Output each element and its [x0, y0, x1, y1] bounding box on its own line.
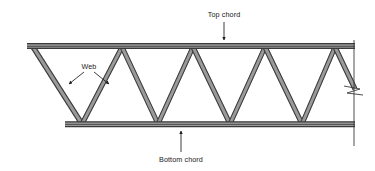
bottom-chord-member: [65, 122, 355, 127]
web-label: Web: [82, 62, 97, 71]
top-chord-annotation: Top chord: [208, 10, 240, 40]
web-diagonal: [228, 46, 266, 125]
truss-diagram: Top chord Bottom chord Web: [0, 0, 375, 171]
web-members: [31, 46, 357, 125]
bottom-chord-label: Bottom chord: [159, 155, 203, 164]
break-symbol-icon: [344, 86, 363, 95]
web-diagonal: [156, 46, 194, 125]
web-diagonal: [80, 46, 123, 125]
web-diagonal: [31, 46, 84, 125]
web-diagonal: [191, 46, 232, 125]
web-diagonal: [300, 46, 336, 125]
web-diagonal: [120, 46, 160, 125]
top-chord-member: [27, 44, 355, 49]
web-diagonal: [263, 46, 304, 125]
bottom-chord-annotation: Bottom chord: [159, 131, 203, 164]
web-diagonal: [333, 46, 357, 90]
web-leader-arrow-left: [69, 72, 84, 84]
top-chord-label: Top chord: [208, 10, 240, 19]
truss-drawing: Top chord Bottom chord Web: [0, 0, 375, 171]
